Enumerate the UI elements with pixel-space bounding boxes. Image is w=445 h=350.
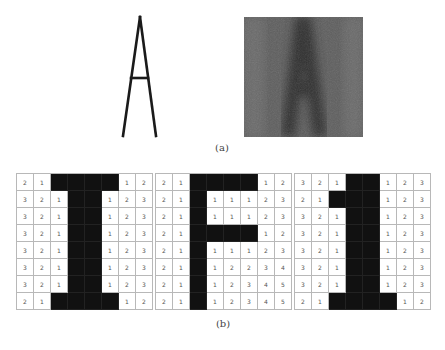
grid-digit-1: 3211232112332112332112332112332112332112… [294,173,431,310]
grid-cell-value: 3 [17,242,34,259]
grid-cell-filled [241,174,258,191]
grid-cell-filled [85,259,102,276]
grid-cell-value: 1 [380,276,397,293]
grid-cell-value: 1 [173,293,190,310]
grid-cell-filled [207,225,224,242]
letter-a-glyph-icon [110,10,170,145]
grid-cell-filled [346,276,363,293]
grid-cell-value: 1 [207,208,224,225]
grid-cell-filled [51,293,68,310]
grid-cell-filled [190,225,207,242]
grid-cell-filled [68,208,85,225]
grid-letter-f: 2112211112321111232112211112321122342112… [155,173,292,310]
grid-cell-value: 1 [224,208,241,225]
grid-cell-value: 1 [329,225,346,242]
grid-cell-value: 2 [295,293,312,310]
grid-cell-value: 1 [173,191,190,208]
grid-cell-value: 1 [119,174,136,191]
grid-cell-value: 1 [34,174,51,191]
grid-cell-value: 3 [275,191,292,208]
grid-cell-filled [68,293,85,310]
grid-cell-value: 1 [380,191,397,208]
grid-cell-filled [85,293,102,310]
grid-cell-value: 2 [414,293,431,310]
grid-cell-value: 2 [312,174,329,191]
grid-cell-value: 2 [258,191,275,208]
grid-cell-filled [346,174,363,191]
grid-cell-value: 1 [102,225,119,242]
grid-cell-value: 1 [224,242,241,259]
grid-cell-filled [346,208,363,225]
grid-cell-value: 3 [414,191,431,208]
grid-cell-value: 3 [295,208,312,225]
grid-cell-value: 3 [295,242,312,259]
grid-cell-value: 2 [258,208,275,225]
grid-cell-value: 2 [295,191,312,208]
grid-cell-value: 3 [414,259,431,276]
grid-cell-value: 3 [414,225,431,242]
grid-cell-filled [363,276,380,293]
grid-cell-value: 2 [397,191,414,208]
grid-cell-value: 1 [51,242,68,259]
grid-cell-filled [363,191,380,208]
grid-cell-value: 1 [102,276,119,293]
grid-cell-filled [346,259,363,276]
grid-cell-value: 4 [275,259,292,276]
grid-cell-value: 2 [34,259,51,276]
grid-cell-value: 3 [136,242,153,259]
grid-cell-value: 2 [258,242,275,259]
noise-texture [244,17,363,137]
grid-cell-value: 1 [241,242,258,259]
grid-cell-value: 2 [397,225,414,242]
grid-cell-value: 1 [380,208,397,225]
grid-cell-value: 2 [156,259,173,276]
grid-cell-filled [224,174,241,191]
grid-cell-value: 1 [173,259,190,276]
grid-cell-value: 1 [51,225,68,242]
grid-cell-value: 2 [397,259,414,276]
grid-cell-filled [68,225,85,242]
grid-cell-value: 2 [119,259,136,276]
grid-cell-value: 1 [51,208,68,225]
grid-cell-filled [85,225,102,242]
grid-cell-filled [85,208,102,225]
grid-cell-value: 5 [275,276,292,293]
grid-cell-value: 1 [312,191,329,208]
grid-cell-value: 2 [275,174,292,191]
grid-cell-filled [190,208,207,225]
grid-cell-value: 2 [156,208,173,225]
grid-cell-value: 1 [207,276,224,293]
grid-cell-value: 1 [329,242,346,259]
grid-cell-value: 1 [51,259,68,276]
grid-cell-value: 2 [275,225,292,242]
grid-cell-filled [363,293,380,310]
grid-cell-filled [346,293,363,310]
grid-cell-filled [68,259,85,276]
grid-cell-filled [190,174,207,191]
grid-cell-filled [346,242,363,259]
grid-cell-value: 2 [34,242,51,259]
grid-cell-filled [363,259,380,276]
grid-cell-value: 2 [397,276,414,293]
grid-cell-value: 2 [17,293,34,310]
grid-cell-value: 5 [275,293,292,310]
grid-cell-value: 3 [17,259,34,276]
grid-cell-value: 3 [17,191,34,208]
grid-cell-value: 1 [102,242,119,259]
grid-cell-value: 2 [224,293,241,310]
grid-cell-value: 3 [136,208,153,225]
grid-cell-value: 2 [136,174,153,191]
grid-cell-value: 3 [136,225,153,242]
grid-cell-value: 3 [241,293,258,310]
grid-cell-value: 2 [156,242,173,259]
grid-cell-filled [241,225,258,242]
grid-cell-value: 1 [329,276,346,293]
grid-cell-value: 1 [102,259,119,276]
grid-cell-filled [190,293,207,310]
grid-cell-value: 1 [312,293,329,310]
letter-a-outline-image [110,10,170,145]
grid-cell-filled [346,225,363,242]
grid-cell-value: 2 [397,174,414,191]
grid-cell-value: 3 [295,225,312,242]
grid-cell-value: 1 [224,191,241,208]
